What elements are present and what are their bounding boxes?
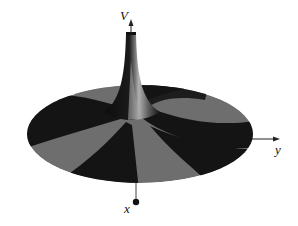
x-axis: x bbox=[123, 183, 139, 216]
x-axis-label: x bbox=[123, 201, 130, 216]
y-axis-label: y bbox=[273, 142, 281, 157]
potential-surface-figure: V y x bbox=[0, 0, 298, 226]
y-axis: y bbox=[252, 137, 281, 158]
y-axis-arrowhead-icon bbox=[273, 137, 280, 142]
v-axis-arrowhead-icon bbox=[129, 19, 134, 26]
v-axis: V bbox=[120, 8, 134, 33]
x-axis-point-icon bbox=[133, 199, 139, 205]
v-axis-label: V bbox=[120, 8, 130, 23]
